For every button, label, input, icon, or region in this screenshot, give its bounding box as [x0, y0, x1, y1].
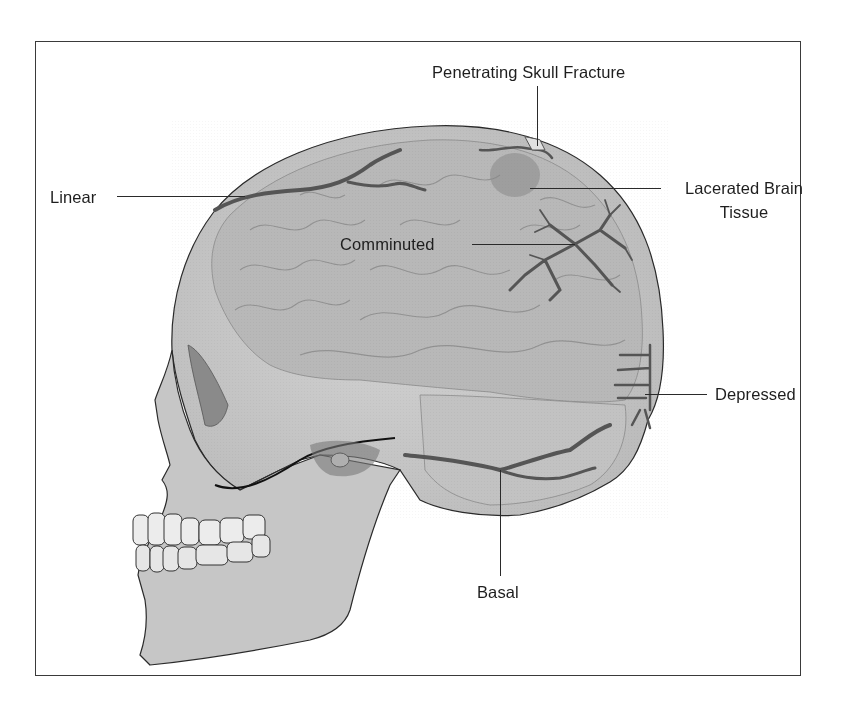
label-lacerated-brain-tissue: Lacerated Brain Tissue — [664, 180, 824, 220]
label-penetrating-skull-fracture: Penetrating Skull Fracture — [432, 64, 625, 81]
label-basal: Basal — [477, 584, 519, 601]
leader-lacerated — [530, 188, 661, 189]
label-lacerated-line2: Tissue — [664, 204, 824, 221]
label-linear: Linear — [50, 189, 96, 206]
label-comminuted: Comminuted — [340, 236, 435, 253]
leader-depressed — [645, 394, 707, 395]
leader-comminuted — [472, 244, 575, 245]
label-lacerated-line1: Lacerated Brain — [664, 180, 824, 197]
leader-basal — [500, 470, 501, 576]
leader-linear — [117, 196, 245, 197]
label-depressed: Depressed — [715, 386, 796, 403]
leader-penetrating — [537, 86, 538, 146]
cranium — [170, 120, 670, 520]
skull-brain-illustration — [0, 0, 862, 705]
